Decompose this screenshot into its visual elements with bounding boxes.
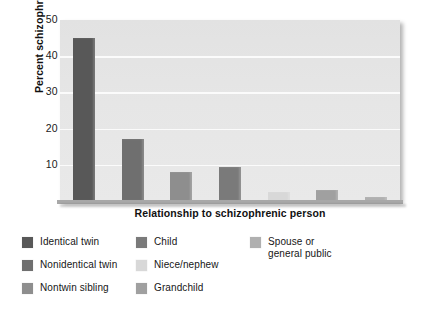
- legend-swatch-icon: [136, 237, 147, 248]
- legend-swatch-icon: [22, 237, 33, 248]
- legend-item: Identical twin: [22, 236, 117, 250]
- legend-swatch-icon: [136, 260, 147, 271]
- legend-item: Niece/nephew: [136, 259, 219, 273]
- legend-item: Nontwin sibling: [22, 282, 117, 296]
- legend-label: Grandchild: [154, 282, 203, 294]
- legend-item: Child: [136, 236, 219, 250]
- legend-column-2: ChildNiece/nephewGrandchild: [136, 236, 219, 305]
- legend-item: Spouse or general public: [250, 236, 332, 250]
- legend-column-1: Identical twinNonidentical twinNontwin s…: [22, 236, 117, 305]
- y-axis-tick-label: 50: [18, 13, 58, 25]
- legend-swatch-icon: [136, 283, 147, 294]
- y-axis-tick-label: 20: [18, 122, 58, 134]
- x-axis-title: Relationship to schizophrenic person: [60, 207, 400, 219]
- chart-legend: Identical twinNonidentical twinNontwin s…: [20, 236, 410, 306]
- legend-label: Identical twin: [40, 236, 99, 248]
- y-axis-tick-label: 30: [18, 85, 58, 97]
- legend-column-3: Spouse or general public: [250, 236, 332, 259]
- bar-shading: [122, 139, 144, 201]
- legend-label: Nontwin sibling: [40, 282, 109, 294]
- y-axis-tick-label: 10: [18, 158, 58, 170]
- bar: [170, 172, 192, 201]
- bar: [73, 38, 95, 201]
- bar-series: [60, 20, 400, 201]
- legend-swatch-icon: [250, 237, 261, 248]
- legend-label: Niece/nephew: [154, 259, 219, 271]
- legend-label: Child: [154, 236, 177, 248]
- legend-label: Nonidentical twin: [40, 259, 117, 271]
- bar-shading: [73, 38, 95, 201]
- legend-label: Spouse or general public: [268, 236, 332, 259]
- bar-shading: [219, 167, 241, 201]
- plot-area: [60, 20, 400, 201]
- chart-figure: Percent schizophrenic 1020304050 Relatio…: [0, 0, 422, 310]
- legend-item: Grandchild: [136, 282, 219, 296]
- bar: [219, 167, 241, 201]
- x-axis-baseline: [57, 200, 403, 204]
- bar: [122, 139, 144, 201]
- legend-swatch-icon: [22, 283, 33, 294]
- legend-item: Nonidentical twin: [22, 259, 117, 273]
- legend-swatch-icon: [22, 260, 33, 271]
- y-axis-tick-label: 40: [18, 49, 58, 61]
- bar-shading: [170, 172, 192, 201]
